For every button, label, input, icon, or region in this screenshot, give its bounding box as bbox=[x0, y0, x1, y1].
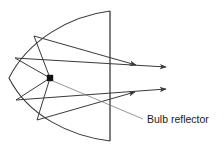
bulb-reflector-leader-line bbox=[53, 81, 143, 119]
incident-ray-group bbox=[15, 36, 50, 120]
incident-ray-3 bbox=[16, 78, 50, 100]
reflected-ray-2 bbox=[15, 58, 166, 67]
reflected-ray-4 bbox=[37, 92, 135, 120]
reflected-ray-1 bbox=[34, 36, 136, 65]
bulb-reflector-figure: Bulb reflector bbox=[0, 0, 224, 151]
bulb-focus-marker bbox=[47, 75, 53, 81]
parabolic-reflector-curve bbox=[9, 11, 110, 141]
incident-ray-2 bbox=[15, 58, 50, 78]
bulb-reflector-diagram: Bulb reflector bbox=[0, 0, 224, 151]
incident-ray-4 bbox=[37, 78, 50, 120]
reflected-ray-3 bbox=[16, 89, 166, 100]
bulb-reflector-label: Bulb reflector bbox=[147, 113, 209, 125]
reflected-ray-group bbox=[15, 36, 166, 120]
incident-ray-1 bbox=[34, 36, 50, 78]
